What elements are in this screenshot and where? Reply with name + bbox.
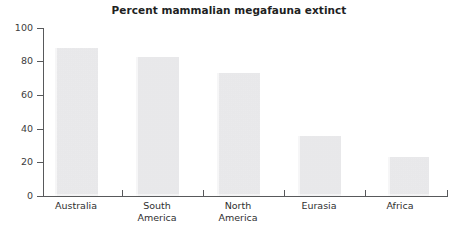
y-tick-label-60: 60 [0, 90, 33, 100]
y-tick-label-0: 0 [0, 191, 33, 201]
bar-australia [55, 48, 98, 196]
x-axis-line [43, 196, 448, 197]
bar-north-america [217, 73, 260, 196]
y-tick-label-80: 80 [0, 56, 33, 66]
x-label-eurasia: Eurasia [279, 200, 359, 212]
x-axis-end-tick [447, 190, 448, 197]
plot-area [43, 28, 447, 196]
x-label-south-america: South America [117, 200, 197, 223]
y-tick-label-20: 20 [0, 157, 33, 167]
y-tick-label-100: 100 [0, 23, 33, 33]
bar-chart: Percent mammalian megafauna extinct 100 … [0, 0, 458, 235]
x-label-australia: Australia [36, 200, 116, 212]
bar-africa [388, 157, 429, 196]
chart-title: Percent mammalian megafauna extinct [0, 4, 458, 16]
bar-south-america [136, 57, 179, 196]
x-label-north-america: North America [198, 200, 278, 223]
y-tick-label-40: 40 [0, 124, 33, 134]
bar-eurasia [298, 136, 341, 196]
x-label-africa: Africa [360, 200, 440, 212]
